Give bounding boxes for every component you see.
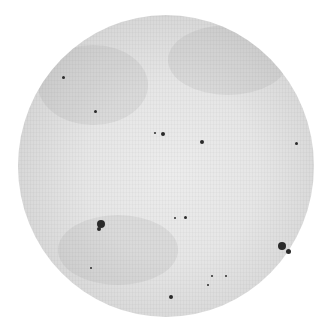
sunspot	[225, 275, 227, 277]
photo-grain	[18, 15, 314, 317]
sunspot	[200, 140, 204, 144]
sunspot	[161, 132, 165, 136]
solar-disk	[18, 15, 314, 317]
sunspot	[169, 295, 173, 299]
sunspot	[278, 242, 286, 250]
sunspot	[295, 142, 298, 145]
sunspot	[90, 267, 92, 269]
sunspot	[62, 76, 65, 79]
sunspot	[174, 217, 176, 219]
sunspot	[211, 275, 213, 277]
sunspot	[184, 216, 187, 219]
sunspot	[97, 227, 101, 231]
sunspot	[94, 110, 97, 113]
sunspot	[286, 249, 291, 254]
